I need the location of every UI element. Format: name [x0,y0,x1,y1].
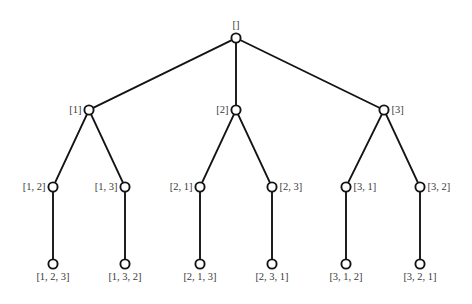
tree-node-n31[interactable] [341,182,350,191]
tree-node-n132[interactable] [120,259,129,268]
edge-layer [53,40,420,259]
node-label-n12: [1, 2] [23,182,46,193]
tree-node-n3[interactable] [379,105,388,114]
tree-edge [238,114,270,183]
tree-node-n32[interactable] [415,182,424,191]
tree-node-n231[interactable] [267,259,276,268]
node-label-n21: [2, 1] [170,182,193,193]
node-label-n3: [3] [392,105,404,116]
tree-edge [93,40,232,108]
tree-node-n13[interactable] [120,182,129,191]
node-label-root: [] [233,20,240,31]
tree-node-n12[interactable] [48,182,57,191]
tree-node-n123[interactable] [48,259,57,268]
tree-edge [386,114,418,183]
tree-edge [55,114,87,183]
tree-node-n321[interactable] [415,259,424,268]
tree-edge [91,114,123,183]
node-label-n321: [3, 2, 1] [403,272,436,283]
tree-edge [348,114,382,183]
node-label-n231: [2, 3, 1] [255,272,288,283]
node-label-n23: [2, 3] [280,182,303,193]
tree-node-n21[interactable] [195,182,204,191]
tree-node-n2[interactable] [231,105,240,114]
tree-canvas [0,0,472,304]
tree-edge [240,40,380,108]
tree-node-root[interactable] [231,33,240,42]
node-label-n132: [1, 3, 2] [108,272,141,283]
node-label-n213: [2, 1, 3] [183,272,216,283]
node-label-n123: [1, 2, 3] [36,272,69,283]
node-label-n1: [1] [69,105,81,116]
node-label-n2: [2] [216,105,228,116]
node-label-n31: [3, 1] [354,182,377,193]
tree-node-n312[interactable] [341,259,350,268]
node-label-n312: [3, 1, 2] [329,272,362,283]
tree-node-n1[interactable] [84,105,93,114]
node-label-n13: [1, 3] [95,182,118,193]
permutation-tree-diagram: [][1][2][3][1, 2][1, 3][2, 1][2, 3][3, 1… [0,0,472,304]
tree-node-n213[interactable] [195,259,204,268]
tree-edge [202,114,234,183]
tree-node-n23[interactable] [267,182,276,191]
node-label-n32: [3, 2] [428,182,451,193]
